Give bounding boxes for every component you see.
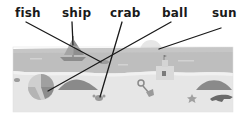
ball-icon xyxy=(28,74,54,100)
sea xyxy=(13,47,233,73)
line-sun xyxy=(159,28,221,49)
beach-scene xyxy=(0,0,243,119)
shell-icon xyxy=(14,78,20,82)
